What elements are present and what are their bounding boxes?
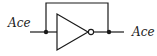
output-junction-dot xyxy=(107,30,111,34)
inverter-diagram: Ace Ace xyxy=(0,0,157,56)
inverter-gate-icon xyxy=(57,14,88,50)
inversion-bubble xyxy=(88,29,93,34)
input-label: Ace xyxy=(7,16,31,30)
output-label: Ace xyxy=(131,25,155,39)
